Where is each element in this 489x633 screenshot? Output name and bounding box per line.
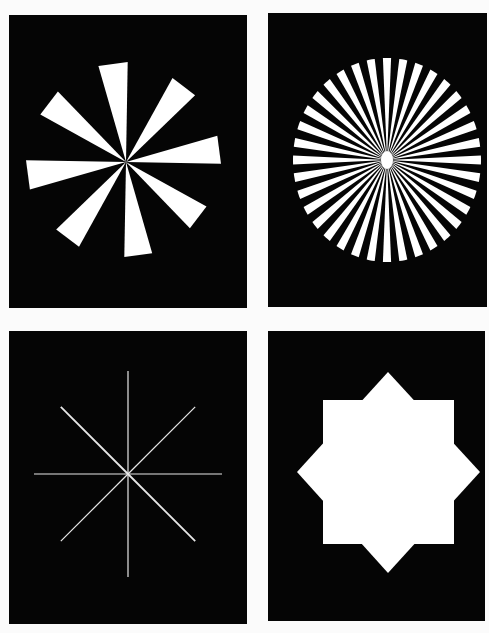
test-pattern-figure (0, 0, 489, 633)
panel-line-star (9, 331, 247, 624)
panel-pinwheel (9, 15, 247, 308)
panel-siemens-star (268, 13, 487, 307)
panel-octagram (268, 331, 485, 621)
octagram-shape (297, 372, 480, 573)
siemens-star-center (381, 151, 393, 169)
